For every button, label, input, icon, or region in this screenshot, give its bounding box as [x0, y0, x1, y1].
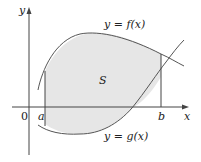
- bound-a-label: a: [38, 110, 45, 123]
- y-axis-arrow-icon: [27, 7, 32, 14]
- x-axis-arrow-icon: [182, 105, 189, 110]
- y-axis-label: y: [18, 4, 26, 17]
- bound-b-label: b: [158, 110, 165, 123]
- x-axis-label: x: [184, 110, 191, 123]
- region-label: S: [99, 74, 107, 87]
- curve-g-label: y = g(x): [103, 130, 148, 143]
- curve-f-label: y = f(x): [103, 18, 145, 31]
- area-between-curves-diagram: y x 0 a b S y = f(x) y = g(x): [0, 0, 201, 162]
- origin-label: 0: [21, 110, 28, 123]
